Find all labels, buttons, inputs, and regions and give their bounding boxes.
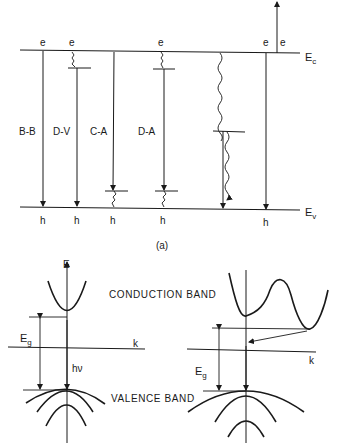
deep-level xyxy=(213,131,245,132)
da-relaxation-squiggle-bottom xyxy=(162,191,166,207)
panel-b-direct-gap: E k Eg hν CONDUCTION BAND VALENCE BAND xyxy=(8,259,216,443)
valence-band-label: VALENCE BAND xyxy=(111,393,195,404)
conduction-band-curve-indirect xyxy=(229,273,328,329)
escaping-electron-label: e xyxy=(280,37,286,48)
valence-band-edge xyxy=(20,207,300,210)
k-axis-right xyxy=(187,349,316,352)
hole-label: h xyxy=(74,215,80,226)
hole-label: h xyxy=(110,215,116,226)
electron-label: e xyxy=(158,37,164,48)
eg-label-right: Eg xyxy=(195,365,207,380)
nonradiative-wavy-transition xyxy=(218,53,222,141)
ca-label: C-A xyxy=(90,126,108,137)
phonon-assisted-arrow xyxy=(249,331,307,342)
electron-label: e xyxy=(69,37,75,48)
da-label: D-A xyxy=(138,126,156,137)
bb-label: B-B xyxy=(19,126,36,137)
ca-relaxation-squiggle xyxy=(112,191,116,207)
photon-label: hν xyxy=(72,363,83,374)
k-axis-left xyxy=(8,347,145,349)
panel-a-caption: (a) xyxy=(156,240,168,251)
panel-a: Ec Ev e h B-B e h D-V h C-A e h D-A xyxy=(19,2,316,251)
ca-transition-arrow xyxy=(113,52,114,190)
electron-label: e xyxy=(40,37,46,48)
conduction-band-label: CONDUCTION BAND xyxy=(109,289,216,300)
eg-label-left: Eg xyxy=(20,332,32,347)
valence-band-split-off xyxy=(46,405,86,426)
energy-axis-label: E xyxy=(63,259,70,270)
conduction-band-edge xyxy=(20,50,300,53)
deep-level-wavy-transition xyxy=(225,132,229,200)
electron-label: e xyxy=(263,37,269,48)
dv-relaxation-squiggle xyxy=(72,52,75,67)
valence-band-light-hole xyxy=(37,391,93,412)
hole-label: h xyxy=(160,215,166,226)
conduction-band-minimum-line xyxy=(212,328,310,329)
k-axis-left-label: k xyxy=(133,338,139,349)
dv-label: D-V xyxy=(53,126,71,137)
hole-label: h xyxy=(40,215,46,226)
da-relaxation-squiggle-top xyxy=(161,52,163,68)
band-diagram: Ec Ev e h B-B e h D-V h C-A e h D-A xyxy=(0,0,340,444)
ev-label: Ev xyxy=(305,206,316,221)
hole-label: h xyxy=(263,217,269,228)
k-axis-right-label: k xyxy=(309,355,315,366)
ec-label: Ec xyxy=(305,51,316,66)
